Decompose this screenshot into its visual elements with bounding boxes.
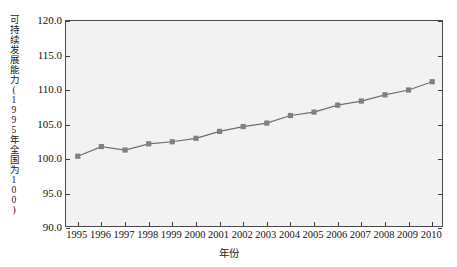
x-tick-label: 1999: [161, 229, 182, 240]
x-tick-label: 2010: [421, 229, 442, 240]
x-tick-label: 1996: [90, 229, 111, 240]
x-tick-mark: [220, 222, 221, 226]
y-tick-mark: [66, 159, 70, 160]
y-tick-mark: [438, 159, 442, 160]
x-tick-mark: [385, 222, 386, 226]
y-tick-mark: [438, 21, 442, 22]
y-tick-mark: [438, 56, 442, 57]
x-axis-title: 年份: [0, 245, 457, 260]
x-tick-mark: [243, 222, 244, 226]
data-point-marker: [335, 103, 340, 108]
y-tick-label: 120.0: [22, 14, 62, 26]
y-tick-mark: [66, 21, 70, 22]
x-tick-label: 2003: [255, 229, 276, 240]
y-tick-mark: [66, 90, 70, 91]
data-point-marker: [146, 141, 151, 146]
x-tick-label: 2000: [184, 229, 205, 240]
data-point-marker: [170, 139, 175, 144]
data-point-marker: [382, 92, 387, 97]
x-tick-label: 1997: [114, 229, 135, 240]
x-tick-label: 2006: [326, 229, 347, 240]
x-tick-mark: [409, 222, 410, 226]
y-tick-label: 100.0: [22, 152, 62, 164]
data-point-marker: [75, 154, 80, 159]
x-tick-label: 1998: [137, 229, 158, 240]
data-point-marker: [430, 79, 435, 84]
data-point-marker: [406, 87, 411, 92]
x-tick-mark: [196, 222, 197, 226]
x-tick-label: 2009: [397, 229, 418, 240]
data-point-marker: [264, 121, 269, 126]
y-tick-label: 105.0: [22, 118, 62, 130]
data-point-marker: [359, 98, 364, 103]
x-tick-mark: [149, 222, 150, 226]
data-point-marker: [241, 124, 246, 129]
y-tick-mark: [438, 125, 442, 126]
x-tick-label: 2007: [350, 229, 371, 240]
y-tick-label: 115.0: [22, 49, 62, 61]
x-tick-mark: [290, 222, 291, 226]
y-tick-label: 95.0: [22, 187, 62, 199]
y-tick-mark: [66, 56, 70, 57]
x-tick-mark: [172, 222, 173, 226]
x-tick-mark: [125, 222, 126, 226]
y-tick-mark: [438, 90, 442, 91]
data-point-marker: [99, 144, 104, 149]
y-tick-mark: [438, 194, 442, 195]
data-point-marker: [122, 147, 127, 152]
x-tick-label: 2004: [279, 229, 300, 240]
y-tick-label: 90.0: [22, 221, 62, 233]
y-tick-label: 110.0: [22, 83, 62, 95]
y-tick-mark: [66, 125, 70, 126]
series-line: [78, 82, 432, 157]
x-tick-mark: [101, 222, 102, 226]
x-tick-label: 2005: [303, 229, 324, 240]
x-tick-label: 2001: [208, 229, 229, 240]
x-tick-mark: [314, 222, 315, 226]
x-tick-mark: [432, 222, 433, 226]
line-series-svg: [66, 21, 444, 228]
y-tick-mark: [66, 194, 70, 195]
x-tick-mark: [361, 222, 362, 226]
plot-area: [65, 20, 443, 227]
data-point-marker: [288, 113, 293, 118]
series-markers: [75, 79, 435, 159]
data-point-marker: [217, 129, 222, 134]
x-tick-mark: [267, 222, 268, 226]
x-tick-label: 1995: [66, 229, 87, 240]
y-axis-tick-labels: 90.095.0100.0105.0110.0115.0120.0: [18, 0, 62, 267]
data-point-marker: [193, 136, 198, 141]
data-point-marker: [311, 109, 316, 114]
x-tick-mark: [338, 222, 339, 226]
chart-container: 可持续发展能力(1995年全国为100) 90.095.0100.0105.01…: [0, 0, 457, 267]
x-tick-label: 2002: [232, 229, 253, 240]
x-tick-label: 2008: [373, 229, 394, 240]
x-tick-mark: [78, 222, 79, 226]
